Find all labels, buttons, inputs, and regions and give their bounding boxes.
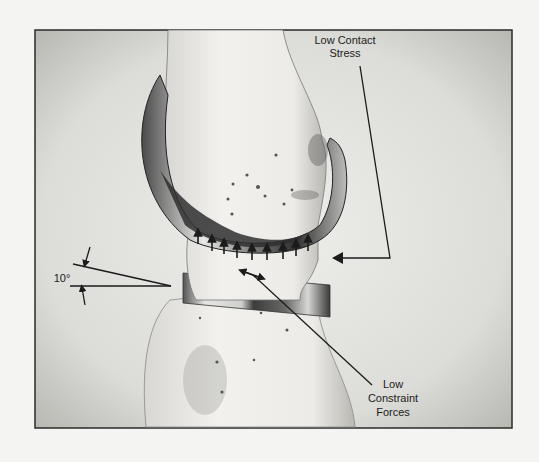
label-low-constraint-forces-line1: Low: [383, 378, 403, 390]
label-low-contact-stress-line2: Stress: [329, 47, 361, 59]
knee-implant-diagram: Low Contact Stress Low Constraint Forces…: [0, 0, 539, 462]
label-low-contact-stress-line1: Low Contact: [314, 34, 375, 46]
label-low-constraint-forces-line3: Forces: [376, 406, 410, 418]
label-angle-10-degrees: 10°: [54, 272, 71, 284]
label-low-constraint-forces-line2: Constraint: [368, 392, 418, 404]
